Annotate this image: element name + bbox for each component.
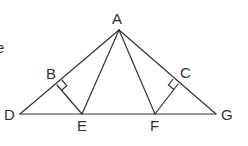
label-b: B — [46, 65, 56, 82]
segment-ad — [20, 30, 119, 114]
right-angle-mark-b — [62, 81, 67, 91]
label-f: F — [150, 117, 159, 134]
label-c: C — [180, 64, 191, 81]
right-angle-mark-c — [168, 80, 173, 90]
segment-af — [119, 30, 155, 114]
partial-text: e — [0, 39, 4, 56]
geometry-diagram: e A B C D E F G — [0, 0, 248, 146]
label-d: D — [4, 106, 15, 123]
label-a: A — [112, 10, 122, 27]
label-e: E — [77, 117, 87, 134]
segment-be — [57, 85, 82, 114]
segment-ag — [119, 30, 216, 114]
segment-ae — [82, 30, 119, 114]
label-g: G — [221, 106, 233, 123]
segment-cf — [155, 84, 178, 114]
